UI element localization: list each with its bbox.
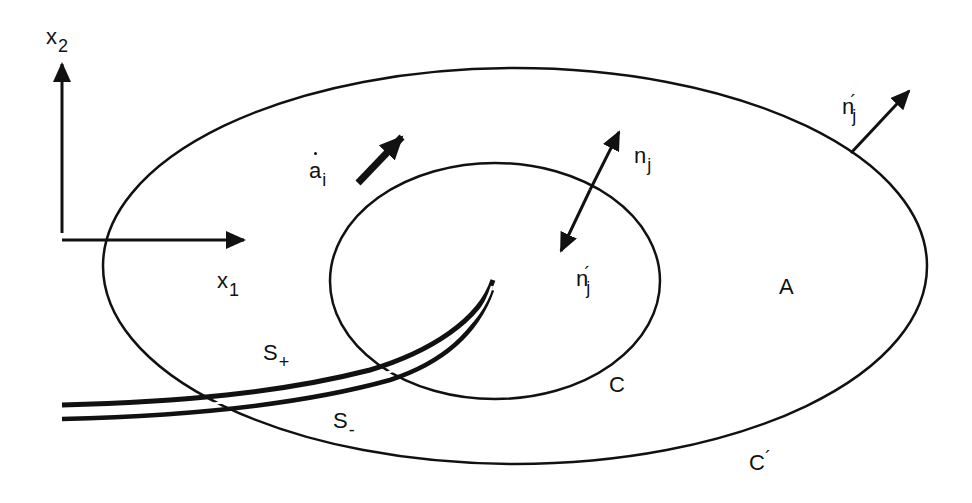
time-derivative-dot (314, 152, 317, 155)
x2-axis-label: x2 (46, 26, 68, 48)
upper-face-label: S+ (263, 342, 289, 364)
outer-normal-label: n´j (842, 96, 856, 118)
outer-contour-label: C´ (749, 452, 771, 474)
crack-velocity-label: ai (309, 160, 326, 182)
x1-axis-label: x1 (217, 270, 239, 292)
region-a-label: A (779, 276, 794, 298)
outer-normal-arrow (851, 91, 909, 153)
inner-normal-double-arrow (561, 132, 619, 251)
outer-contour-c-prime (103, 68, 927, 464)
inner-normal-in-label: n´j (576, 268, 590, 290)
lower-face-label: S- (333, 410, 355, 432)
inner-normal-out-label: nj (634, 145, 651, 167)
diagram-canvas (0, 0, 972, 503)
inner-contour-label: C (609, 374, 625, 396)
coordinate-axes (62, 64, 244, 240)
crack-velocity-arrow (358, 137, 402, 183)
